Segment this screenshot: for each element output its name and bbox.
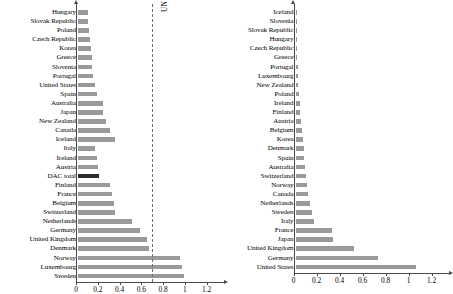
bar-row: Canada xyxy=(0,126,226,135)
category-label: Sweden xyxy=(226,209,296,216)
bar-row: Korea xyxy=(0,44,226,53)
category-label: Portugal xyxy=(0,73,78,80)
bar-row: New Zealand xyxy=(0,117,226,126)
bar-row: Spain xyxy=(226,154,452,163)
bar-row: Switzerland xyxy=(0,208,226,217)
x-axis-tick-label: 0.4 xyxy=(110,286,130,293)
left-plot-area: HungarySlovak RepublicPolandCzech Republ… xyxy=(0,0,226,243)
category-label: France xyxy=(0,191,78,198)
bar-row: Sweden xyxy=(0,272,226,281)
right-plot-area: IcelandSloveniaSlovak RepublicHungaryCze… xyxy=(226,0,452,243)
bar xyxy=(296,10,297,15)
bar-row: Iceland xyxy=(226,8,452,17)
bar-cell xyxy=(296,154,452,163)
bar xyxy=(296,19,297,24)
category-label: Ireland xyxy=(226,100,296,107)
bar-row: Belgium xyxy=(226,126,452,135)
bar xyxy=(78,274,184,279)
y-axis-line xyxy=(294,4,295,273)
bar-row: United States xyxy=(226,263,452,272)
bar xyxy=(296,265,417,270)
bar-row: Canada xyxy=(226,190,452,199)
bar xyxy=(296,92,299,97)
bar xyxy=(296,65,298,70)
un-target-line xyxy=(152,4,153,282)
x-axis-tick-label: 0.2 xyxy=(88,286,108,293)
category-label: New Zealand xyxy=(0,118,78,125)
category-label: Austria xyxy=(226,118,296,125)
category-label: Netherlands xyxy=(0,218,78,225)
category-label: Canada xyxy=(0,127,78,134)
bar xyxy=(296,237,334,242)
category-label: Korea xyxy=(226,136,296,143)
category-label: Norway xyxy=(226,182,296,189)
bar-row: Poland xyxy=(226,90,452,99)
bar xyxy=(296,183,308,188)
bar xyxy=(296,246,355,251)
bar-cell xyxy=(296,226,452,235)
bar-cell xyxy=(296,17,452,26)
bar-cell xyxy=(296,81,452,90)
bar-row: Japan xyxy=(226,235,452,244)
bar xyxy=(296,128,303,133)
bar-cell xyxy=(296,190,452,199)
category-label: New Zealand xyxy=(226,82,296,89)
category-label: Poland xyxy=(226,91,296,98)
bar xyxy=(78,192,112,197)
category-label: Japan xyxy=(226,236,296,243)
bar xyxy=(78,246,149,251)
category-label: DAC total xyxy=(0,173,78,180)
bar-row: Austria xyxy=(226,117,452,126)
bar-row: Finland xyxy=(226,108,452,117)
x-axis-tick-label: 0.4 xyxy=(330,277,350,284)
bar xyxy=(78,137,115,142)
category-label: Finland xyxy=(226,109,296,116)
bar-row: Sweden xyxy=(226,208,452,217)
category-label: Slovak Republic xyxy=(0,18,78,25)
y-axis-line xyxy=(76,4,77,282)
category-label: Czech Republic xyxy=(0,36,78,43)
bar-row: United Kingdom xyxy=(226,244,452,253)
bar xyxy=(78,219,132,224)
x-axis-tick-label: 0 xyxy=(284,277,304,284)
bar xyxy=(78,10,88,15)
bar xyxy=(296,228,333,233)
category-label: Switzerland xyxy=(0,209,78,216)
x-axis-tick-label: 1 xyxy=(175,286,195,293)
category-label: United Kingdom xyxy=(0,236,78,243)
bar-row: Italy xyxy=(226,217,452,226)
bar xyxy=(78,237,147,242)
bar-cell xyxy=(296,199,452,208)
bar xyxy=(296,119,302,124)
bar xyxy=(78,46,91,51)
category-label: United States xyxy=(226,264,296,271)
bar xyxy=(296,101,300,106)
bar-cell xyxy=(296,53,452,62)
bar-row: Germany xyxy=(0,226,226,235)
category-label: Ireland xyxy=(0,155,78,162)
bar-row: New Zealand xyxy=(226,81,452,90)
bar xyxy=(78,101,103,106)
bar-row: Ireland xyxy=(0,154,226,163)
bar-row: Germany xyxy=(226,254,452,263)
bar xyxy=(296,46,297,51)
bar xyxy=(78,256,180,261)
category-label: Germany xyxy=(0,227,78,234)
category-label: Canada xyxy=(226,191,296,198)
category-label: Slovak Republic xyxy=(226,27,296,34)
bar xyxy=(78,201,114,206)
category-label: Greece xyxy=(226,54,296,61)
bar-cell xyxy=(296,72,452,81)
category-label: Switzerland xyxy=(226,173,296,180)
bar-row: Hungary xyxy=(0,8,226,17)
category-label: Czech Republic xyxy=(226,45,296,52)
category-label: Iceland xyxy=(0,136,78,143)
bar xyxy=(296,219,315,224)
category-label: Netherlands xyxy=(226,200,296,207)
bar-row: Australia xyxy=(0,99,226,108)
bar-row-list: IcelandSloveniaSlovak RepublicHungaryCze… xyxy=(226,8,452,272)
bar xyxy=(296,74,299,79)
bar xyxy=(78,65,92,70)
bar xyxy=(296,28,297,33)
bar-row: Czech Republic xyxy=(0,35,226,44)
